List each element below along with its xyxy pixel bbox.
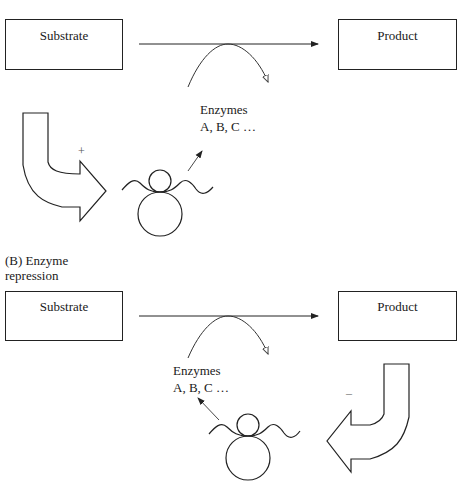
diagram-graphics (0, 0, 470, 502)
expression-arrow-b (198, 398, 219, 420)
enzyme-arc-a (188, 44, 268, 87)
gene-regulator-icon-b (209, 414, 300, 480)
enzyme-arc-b (188, 316, 268, 358)
induction-arrow-icon (23, 113, 106, 221)
gene-regulator-icon-a (122, 170, 213, 236)
repression-arrow-icon (327, 364, 409, 472)
expression-arrow-a (188, 151, 202, 171)
